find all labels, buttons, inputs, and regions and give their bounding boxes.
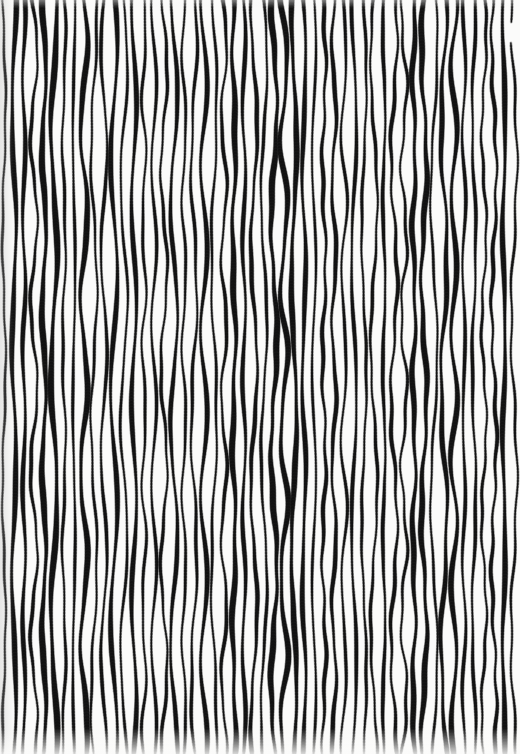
artwork-frame — [0, 0, 520, 754]
stripe-pattern-canvas — [0, 0, 520, 754]
